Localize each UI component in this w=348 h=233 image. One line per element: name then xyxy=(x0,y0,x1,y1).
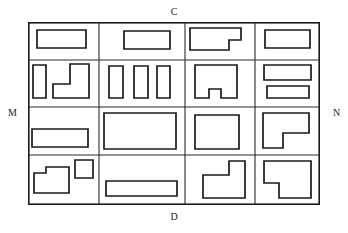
cell-r1c1 xyxy=(37,30,86,48)
shape-r2c2-3-vertical-rectangle xyxy=(157,66,170,98)
shape-r2c4-1-horizontal-rectangle xyxy=(264,65,311,80)
label-right-n: N xyxy=(333,108,340,118)
shape-r3c3-1-rectangle xyxy=(195,115,239,149)
cell-r3c3 xyxy=(195,115,239,149)
label-left-m: M xyxy=(8,108,17,118)
label-bottom-d: D xyxy=(0,212,348,222)
shape-r2c1-1-vertical-rectangle xyxy=(33,65,46,98)
cell-r3c2 xyxy=(104,113,176,149)
shape-r1c4-1-rectangle xyxy=(265,30,310,48)
shape-r2c2-1-vertical-rectangle xyxy=(109,66,123,98)
label-top-c: C xyxy=(0,7,348,17)
shape-r1c1-1-rectangle xyxy=(37,30,86,48)
floor-plan-grid xyxy=(28,22,320,205)
shape-r4c2-1-wide-flat-rectangle xyxy=(106,181,177,196)
cell-r1c2 xyxy=(124,31,170,49)
plan-svg xyxy=(28,22,320,205)
cell-r1c4 xyxy=(265,30,310,48)
shape-r2c2-2-vertical-rectangle xyxy=(134,66,148,98)
shape-r3c2-1-large-rectangle xyxy=(104,113,176,149)
cell-r3c1 xyxy=(32,129,88,147)
shape-r1c2-1-rectangle xyxy=(124,31,170,49)
shape-r2c4-2-horizontal-rectangle xyxy=(267,86,309,98)
figure-container: C D M N xyxy=(0,0,348,233)
cell-r2c2 xyxy=(109,66,170,98)
shape-r4c1-2-small-square xyxy=(75,160,93,178)
cell-r4c2 xyxy=(106,181,177,196)
shape-r3c1-1-horizontal-rectangle xyxy=(32,129,88,147)
